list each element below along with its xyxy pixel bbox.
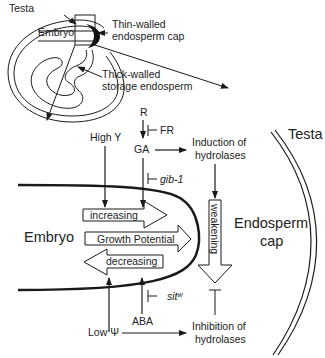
inset-endosperm-cap xyxy=(86,24,100,48)
endosperm-cap-label-2: cap xyxy=(260,233,283,249)
low-psi-label: Low Ψ xyxy=(88,326,119,338)
increasing-label: increasing xyxy=(90,209,138,221)
inset-testa-label: Testa xyxy=(9,2,34,14)
inset-thin-walled-label-2: endosperm cap xyxy=(112,30,185,42)
gib1-label: gib-1 xyxy=(160,173,183,185)
inset-thick-walled-label-2: storage endosperm xyxy=(102,80,193,92)
growth-potential-label: Growth Potential xyxy=(97,233,175,245)
inset-thin-walled-label-1: Thin-walled xyxy=(112,18,166,30)
ga-label: GA xyxy=(134,143,149,155)
r-label: R xyxy=(140,106,148,118)
endosperm-cap-label-1: Endosperm xyxy=(234,215,308,231)
induction-label-2: hydrolases xyxy=(195,149,246,161)
fr-label: FR xyxy=(160,124,174,136)
seed-inset: Testa Embryo Thin-walled endosperm cap T… xyxy=(8,2,228,122)
high-psi-label: High Y xyxy=(90,131,121,143)
weakening-label: weakening xyxy=(209,203,221,254)
main-testa-label: Testa xyxy=(288,126,324,142)
inset-thick-walled-label-1: Thick-walled xyxy=(102,68,161,80)
decreasing-label: decreasing xyxy=(106,255,158,267)
inset-embryo-label: Embryo xyxy=(38,26,74,38)
aba-label: ABA xyxy=(132,315,153,327)
induction-label-1: Induction of xyxy=(192,136,246,148)
inhibition-label-1: Inhibition of xyxy=(192,320,246,332)
sitw-label: sitw xyxy=(167,290,184,302)
inhibition-label-2: hydrolases xyxy=(195,333,246,345)
main-embryo-label: Embryo xyxy=(24,229,74,245)
seed-germination-diagram: Testa Embryo Thin-walled endosperm cap T… xyxy=(0,0,325,358)
